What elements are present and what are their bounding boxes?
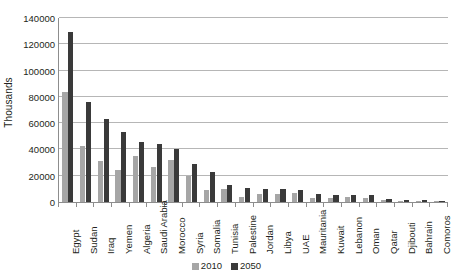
x-axis-category-label-text: Libya [283, 231, 293, 254]
x-axis-category-label-text: Saudi Arabia [159, 200, 169, 254]
bar-group [59, 18, 77, 202]
bar [204, 190, 209, 202]
x-axis-tick [447, 203, 448, 207]
bar-group [77, 18, 95, 202]
bar [275, 194, 280, 202]
bar [210, 172, 215, 202]
y-axis-tick-label: 60000 [29, 118, 55, 129]
x-axis-tick [182, 203, 183, 207]
bar-group [413, 18, 431, 202]
x-axis-tick [199, 203, 200, 207]
bar-group [395, 18, 413, 202]
bar [439, 201, 444, 202]
bar [398, 201, 403, 202]
bar [168, 160, 173, 202]
bar [68, 32, 73, 202]
chart-legend: 20102050 [0, 258, 453, 274]
bar [386, 199, 391, 202]
x-axis-category-label-text: Comoros [442, 215, 452, 254]
bar-group [130, 18, 148, 202]
bar [221, 189, 226, 202]
bar-group [200, 18, 218, 202]
y-axis-tick-label: 80000 [29, 91, 55, 102]
legend-entry: 2050 [231, 261, 261, 271]
bar [280, 189, 285, 202]
x-axis-tick [323, 203, 324, 207]
bar [333, 195, 338, 202]
x-axis-tick [58, 203, 59, 207]
legend-swatch-icon [231, 263, 238, 270]
x-axis-tick [412, 203, 413, 207]
x-axis-tick [146, 203, 147, 207]
x-axis-tick [341, 203, 342, 207]
x-axis-tick [76, 203, 77, 207]
x-axis-ticks [58, 203, 448, 207]
x-axis-tick [129, 203, 130, 207]
bar [104, 119, 109, 202]
bar [310, 198, 315, 202]
legend-entry: 2010 [192, 261, 222, 271]
x-axis-category-label-text: Sudan [89, 227, 99, 254]
x-axis-category-label-text: Mauritania [318, 210, 328, 254]
y-axis-title-label: Thousands [3, 77, 14, 127]
x-axis-tick [306, 203, 307, 207]
bar-group [324, 18, 342, 202]
bar [245, 188, 250, 202]
bar-group [254, 18, 272, 202]
bar-group [165, 18, 183, 202]
x-axis-category-label-text: Yemen [124, 225, 134, 254]
y-axis-tick-label: 40000 [29, 144, 55, 155]
bar [263, 189, 268, 202]
x-axis-category-label-text: Lebanon [354, 217, 364, 254]
bar-group [94, 18, 112, 202]
bar [351, 195, 356, 202]
y-axis-tick-labels: 020000400006000080000100000120000140000 [16, 12, 58, 208]
x-axis-category-label-text: Iraq [106, 238, 116, 254]
y-axis-title: Thousands [0, 0, 16, 205]
plot-area [58, 18, 448, 203]
bar-group [147, 18, 165, 202]
bar [292, 193, 297, 202]
bars-layer [59, 18, 448, 202]
bar-group [183, 18, 201, 202]
x-axis-tick [253, 203, 254, 207]
x-axis-tick [111, 203, 112, 207]
x-axis-category-label-text: Kuwait [336, 225, 346, 254]
x-axis-category-labels: EgyptSudanIraqYemenAlgeriaSaudi ArabiaMo… [58, 208, 448, 256]
bar [434, 201, 439, 202]
bar-group [342, 18, 360, 202]
bar-group [377, 18, 395, 202]
bar [139, 142, 144, 202]
bar-group [218, 18, 236, 202]
x-axis-category-label-text: Bahrain [424, 221, 434, 254]
bar [186, 176, 191, 202]
bar [416, 201, 421, 202]
x-axis-tick [270, 203, 271, 207]
bar [86, 102, 91, 202]
bar-group [307, 18, 325, 202]
x-axis-category-label-text: Qatar [389, 230, 399, 254]
y-axis-tick-label: 20000 [29, 170, 55, 181]
legend-label: 2010 [201, 261, 222, 271]
bar [404, 200, 409, 202]
bar-group [289, 18, 307, 202]
bar [422, 200, 427, 202]
x-axis-tick [93, 203, 94, 207]
bar [239, 197, 244, 202]
bar-group [360, 18, 378, 202]
y-axis-tick-label: 120000 [23, 39, 55, 50]
bar [257, 194, 262, 202]
x-axis-category-label-text: Algeria [142, 224, 152, 254]
x-axis-category-label-text: UAE [301, 234, 311, 254]
x-axis-category-label-text: Egypt [71, 230, 81, 254]
bar [363, 198, 368, 202]
bar [157, 144, 162, 202]
x-axis-category-label-text: Tunisia [230, 224, 240, 254]
x-axis-tick [288, 203, 289, 207]
bar [328, 198, 333, 202]
bar [227, 185, 232, 202]
x-axis-tick [394, 203, 395, 207]
x-axis-category-label-text: Syria [195, 232, 205, 254]
bar [381, 200, 386, 202]
bar [133, 156, 138, 202]
